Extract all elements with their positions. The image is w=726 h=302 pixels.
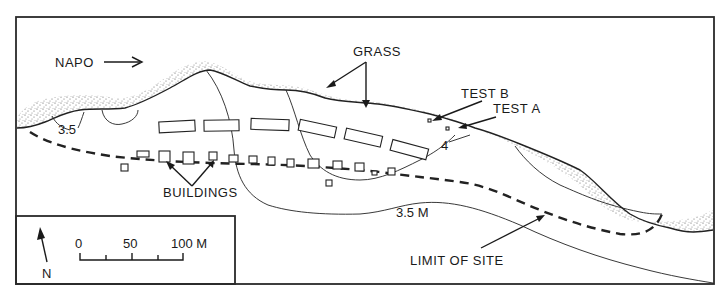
north-label: N [42, 266, 51, 281]
grass-arrow-1 [330, 62, 366, 85]
limit-arrow [481, 218, 540, 248]
north-arrowhead [37, 227, 45, 240]
contour-label-3-5m: 3.5 M [396, 205, 429, 220]
river-label: NAPO [55, 55, 94, 70]
limit-arrowhead [536, 215, 545, 222]
buildings-label: BUILDINGS [163, 185, 238, 200]
grass-plots [159, 118, 429, 159]
contour-bump-3 [102, 110, 138, 124]
limit-of-site-label: LIMIT OF SITE [410, 253, 504, 268]
site-map: NAPO GRASS TEST B TEST A 4 3.5 BUILDINGS… [0, 0, 726, 302]
test-b-arrow [436, 101, 482, 119]
north-arrow [41, 235, 47, 262]
contour-label-3-5-left: 3.5 [58, 122, 76, 137]
contour-line-west [206, 70, 713, 283]
buildings-arrow-2 [192, 164, 211, 186]
legend-box: N 0 50 100 M [16, 216, 235, 284]
river-bank-stipple [17, 62, 713, 232]
scale-label-0: 0 [75, 236, 82, 251]
contour-label-4: 4 [441, 138, 448, 153]
test-b-label: TEST B [461, 86, 509, 101]
grass-label: GRASS [353, 44, 401, 59]
test-a-arrow [462, 117, 496, 127]
grass-arrowhead-1 [326, 80, 336, 88]
scale-label-50: 50 [123, 236, 137, 251]
test-a-label: TEST A [493, 101, 541, 116]
limit-of-site-line [30, 132, 662, 234]
contour-4-leader [449, 135, 470, 142]
contour-bump-2 [78, 112, 84, 128]
scale-label-100m: 100 M [171, 236, 207, 251]
buildings-arrow-1 [170, 165, 192, 186]
grass-arrowhead-2 [362, 100, 370, 108]
